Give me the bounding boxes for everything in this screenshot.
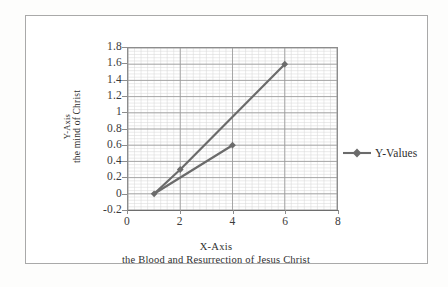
y-axis-tick-label: 1.6 <box>107 57 122 68</box>
x-axis-tick-mark <box>233 210 234 214</box>
y-axis-title: Y-Axis the mind of Christ <box>62 67 83 187</box>
plot-area <box>127 47 338 210</box>
y-axis-tick-mark <box>122 194 127 195</box>
y-axis-tick-label: 0.8 <box>107 123 122 134</box>
legend-series-marker-icon <box>342 147 372 159</box>
y-axis-tick-labels: 1.81.61.41.210.80.60.40.20-0.2 <box>86 16 122 265</box>
x-axis-tick-label: 4 <box>213 215 253 227</box>
y-axis-tick-mark <box>122 210 127 211</box>
y-axis-tick-label: 1.8 <box>107 41 122 52</box>
y-axis-title-primary: Y-Axis <box>62 67 72 187</box>
x-axis-tick-mark <box>127 210 128 214</box>
y-axis-tick-mark <box>122 161 127 162</box>
y-axis-tick-mark <box>122 47 127 48</box>
chart-frame: Y-Axis the mind of Christ 1.81.61.41.210… <box>25 15 428 264</box>
y-axis-tick-mark <box>122 145 127 146</box>
x-axis-tick-label: 0 <box>107 215 147 227</box>
y-axis-tick-label: 1.2 <box>107 90 122 101</box>
y-axis-tick-mark <box>122 96 127 97</box>
x-axis-tick-label: 8 <box>318 215 358 227</box>
y-axis-tick-mark <box>122 112 127 113</box>
x-axis-title-primary: X-Axis <box>66 240 366 253</box>
x-axis-tick-mark <box>285 210 286 214</box>
y-axis-tick-mark <box>122 177 127 178</box>
chart-legend: Y-Values <box>342 147 417 159</box>
y-axis-tick-label: 0.2 <box>107 171 122 182</box>
y-axis-tick-mark <box>122 129 127 130</box>
x-axis-tick-label: 6 <box>265 215 305 227</box>
x-axis-tick-label: 2 <box>160 215 200 227</box>
chart-page: Y-Axis the mind of Christ 1.81.61.41.210… <box>0 0 448 287</box>
y-axis-title-secondary: the mind of Christ <box>72 67 83 187</box>
legend-series-label: Y-Values <box>375 147 417 159</box>
x-axis-tick-mark <box>180 210 181 214</box>
y-axis-tick-label: 0.6 <box>107 139 122 150</box>
y-axis-tick-mark <box>122 80 127 81</box>
x-axis-title: X-Axis the Blood and Resurrection of Jes… <box>66 240 366 266</box>
x-axis-title-secondary: the Blood and Resurrection of Jesus Chri… <box>66 253 366 266</box>
y-axis-tick-label: -0.2 <box>103 204 122 215</box>
y-axis-tick-label: 0.4 <box>107 155 122 166</box>
data-series-layer <box>128 48 337 210</box>
y-axis-tick-label: 1.4 <box>107 74 122 85</box>
y-axis-tick-mark <box>122 63 127 64</box>
x-axis-tick-mark <box>338 210 339 214</box>
